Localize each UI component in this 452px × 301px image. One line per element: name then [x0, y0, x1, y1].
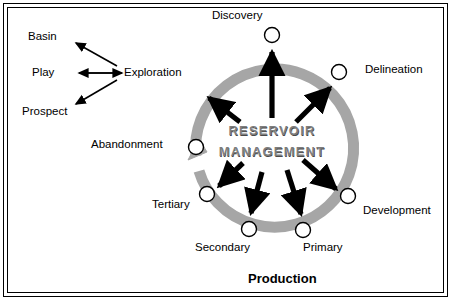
arrow-to-primary	[287, 170, 301, 214]
arrow-to-delineation	[296, 88, 330, 122]
label-primary: Primary	[303, 242, 343, 254]
label-development: Development	[363, 205, 431, 217]
arrow-exploration-to-prospect	[76, 80, 117, 104]
label-production: Production	[248, 271, 317, 286]
node-tertiary	[200, 187, 215, 202]
center-title-line2: MANAGEMENT	[196, 143, 348, 162]
node-primary	[296, 223, 311, 238]
arrow-to-tertiary	[219, 163, 243, 186]
arrow-exploration-to-basin	[76, 43, 117, 66]
arrow-to-abandonment	[209, 98, 240, 122]
label-play: Play	[32, 67, 54, 79]
label-prospect: Prospect	[22, 106, 67, 118]
label-basin: Basin	[28, 31, 57, 43]
arrow-to-development	[303, 160, 336, 189]
label-tertiary: Tertiary	[152, 199, 190, 211]
exploration-arrows	[76, 43, 122, 104]
node-development	[341, 189, 356, 204]
arrow-to-secondary	[251, 172, 262, 213]
node-delineation	[332, 65, 347, 80]
node-discovery	[265, 28, 280, 43]
center-title-line1: RESERVOIR	[206, 122, 338, 141]
label-abandonment: Abandonment	[91, 139, 163, 151]
label-secondary: Secondary	[195, 242, 250, 254]
label-discovery: Discovery	[212, 10, 262, 22]
label-delineation: Delineation	[365, 64, 423, 76]
figure-canvas: Basin Play Prospect Exploration Discover…	[0, 0, 452, 301]
label-exploration: Exploration	[124, 67, 182, 79]
node-secondary	[242, 222, 257, 237]
